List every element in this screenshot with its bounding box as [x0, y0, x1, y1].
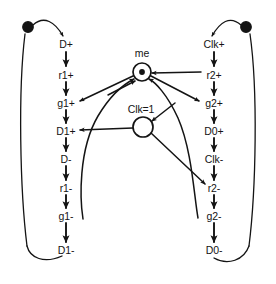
petri-net-graphics: [0, 0, 276, 284]
transition-g2-minus[interactable]: g2-: [207, 211, 222, 222]
right-init-return-spine: [249, 34, 255, 246]
arc-g1minus-to-me: [81, 79, 134, 219]
transition-g1-minus[interactable]: g1-: [59, 211, 74, 222]
arc-right-init-to-clkplus: [212, 20, 241, 36]
place-right-init-marked[interactable]: [241, 22, 251, 32]
arc-clk1-to-r2minus: [151, 133, 205, 184]
transition-r1-plus[interactable]: r1+: [58, 70, 73, 81]
transition-r1-minus[interactable]: r1-: [60, 183, 73, 194]
transition-r2-minus[interactable]: r2-: [208, 183, 221, 194]
transition-g1-plus[interactable]: g1+: [57, 98, 75, 109]
transition-clk-minus[interactable]: Clk-: [205, 154, 223, 165]
place-clk1-circle[interactable]: [133, 117, 153, 137]
arc-clk1-to-d1plus: [80, 128, 133, 130]
left-init-return-spine: [21, 34, 27, 246]
transition-d0-plus[interactable]: D0+: [204, 126, 223, 137]
stg-diagram-canvas: D+ r1+ g1+ D1+ D- r1- g1- D1- Clk+ r2+ g…: [0, 0, 276, 284]
transition-d1-minus[interactable]: D1-: [58, 245, 75, 256]
transition-d-minus[interactable]: D-: [61, 154, 72, 165]
arc-g2minus-to-me: [149, 79, 198, 218]
arc-left-init-to-dplus: [33, 20, 63, 36]
arc-me-to-g2plus: [151, 76, 199, 101]
transition-clk-plus[interactable]: Clk+: [204, 39, 225, 50]
transition-g2-plus[interactable]: g2+: [205, 98, 223, 109]
arc-to-clk1-from-right: [152, 103, 175, 121]
place-label-me: me: [135, 48, 149, 59]
transition-d1-plus[interactable]: D1+: [56, 126, 75, 137]
arc-r2plus-to-me: [152, 72, 201, 73]
transition-d0-minus[interactable]: D0-: [206, 245, 223, 256]
arc-to-me-from-lower-left: [108, 81, 135, 95]
place-me-token: [139, 69, 145, 75]
place-left-init-marked[interactable]: [23, 22, 33, 32]
transition-r2-plus[interactable]: r2+: [206, 70, 221, 81]
place-label-clk1: Clk=1: [128, 104, 155, 115]
transition-d-plus[interactable]: D+: [59, 39, 73, 50]
arc-me-to-g1plus: [80, 76, 133, 101]
